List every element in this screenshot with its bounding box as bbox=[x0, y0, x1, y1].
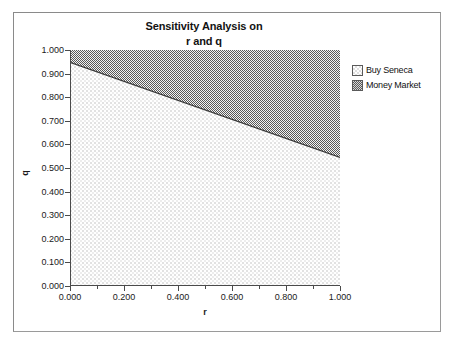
y-tick-label-11: 0.000 bbox=[16, 282, 64, 291]
chart-title-line-1: Sensitivity Analysis on bbox=[145, 20, 262, 32]
x-tick-minor-5 bbox=[313, 286, 314, 289]
x-tick-label-2: 0.200 bbox=[99, 293, 149, 302]
legend-item-buy-seneca[interactable]: Buy Seneca bbox=[352, 63, 444, 77]
x-axis-title: r bbox=[70, 307, 340, 317]
y-tick-5 bbox=[65, 144, 70, 145]
x-tick-1 bbox=[70, 286, 71, 291]
legend-label-buy-seneca: Buy Seneca bbox=[366, 65, 413, 75]
x-tick-label-5: 0.800 bbox=[261, 293, 311, 302]
y-tick-label-10: 0.100 bbox=[16, 258, 64, 267]
x-tick-4 bbox=[232, 286, 233, 291]
region-fills bbox=[70, 50, 340, 286]
y-tick-9 bbox=[65, 239, 70, 240]
chart-title-line-2: r and q bbox=[44, 34, 364, 49]
x-tick-6 bbox=[340, 286, 341, 291]
chart-title: Sensitivity Analysis on r and q bbox=[44, 19, 364, 49]
y-axis-title: q bbox=[20, 170, 30, 176]
y-tick-label-7: 0.400 bbox=[16, 188, 64, 197]
x-tick-3 bbox=[178, 286, 179, 291]
y-tick-1 bbox=[65, 50, 70, 51]
legend-label-money-market: Money Market bbox=[366, 80, 421, 90]
x-tick-minor-4 bbox=[259, 286, 260, 289]
legend-swatch-buy-seneca bbox=[352, 65, 363, 76]
y-tick-2 bbox=[65, 74, 70, 75]
legend-item-money-market[interactable]: Money Market bbox=[352, 78, 444, 92]
y-tick-label-1: 1.000 bbox=[16, 46, 64, 55]
x-tick-5 bbox=[286, 286, 287, 291]
y-tick-label-2: 0.900 bbox=[16, 70, 64, 79]
x-tick-label-1: 0.000 bbox=[45, 293, 95, 302]
y-tick-label-8: 0.300 bbox=[16, 211, 64, 220]
y-tick-8 bbox=[65, 215, 70, 216]
plot-area bbox=[70, 50, 340, 286]
y-tick-label-5: 0.600 bbox=[16, 140, 64, 149]
chart-legend: Buy Seneca Money Market bbox=[352, 63, 444, 93]
x-tick-minor-3 bbox=[205, 286, 206, 289]
x-tick-label-6: 1.000 bbox=[315, 293, 365, 302]
legend-swatch-money-market bbox=[352, 80, 363, 91]
y-tick-label-3: 0.800 bbox=[16, 93, 64, 102]
x-tick-minor-1 bbox=[97, 286, 98, 289]
y-tick-7 bbox=[65, 192, 70, 193]
y-tick-6 bbox=[65, 168, 70, 169]
y-tick-label-4: 0.700 bbox=[16, 117, 64, 126]
y-tick-3 bbox=[65, 97, 70, 98]
y-tick-10 bbox=[65, 262, 70, 263]
y-tick-4 bbox=[65, 121, 70, 122]
x-tick-label-3: 0.400 bbox=[153, 293, 203, 302]
x-tick-label-4: 0.600 bbox=[207, 293, 257, 302]
x-tick-minor-2 bbox=[151, 286, 152, 289]
y-tick-label-9: 0.200 bbox=[16, 235, 64, 244]
x-tick-2 bbox=[124, 286, 125, 291]
